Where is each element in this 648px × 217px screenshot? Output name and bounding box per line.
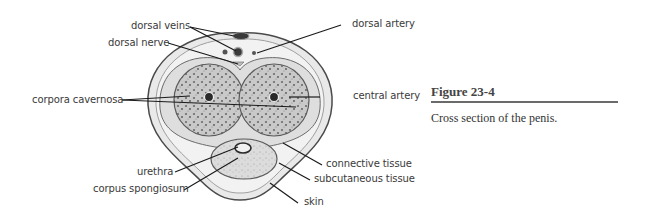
label-dorsal-veins: dorsal veins bbox=[131, 20, 190, 31]
label-skin: skin bbox=[304, 196, 324, 207]
label-connective-tissue: connective tissue bbox=[326, 158, 412, 169]
figure-divider bbox=[431, 101, 618, 103]
central-artery-left bbox=[205, 93, 214, 102]
label-dorsal-nerve: dorsal nerve bbox=[108, 37, 169, 48]
figure-caption: Cross section of the penis. bbox=[431, 111, 557, 126]
urethra-shape bbox=[235, 143, 251, 153]
label-subcutaneous-tissue: subcutaneous tissue bbox=[314, 173, 415, 184]
label-corpora-cavernosa: corpora cavernosa bbox=[32, 94, 123, 105]
corpus-spongiosum bbox=[211, 139, 277, 179]
label-dorsal-artery: dorsal artery bbox=[352, 18, 415, 29]
label-urethra: urethra bbox=[137, 166, 173, 177]
label-corpus-spongiosum: corpus spongiosum bbox=[93, 183, 189, 194]
label-central-artery: central artery bbox=[353, 90, 420, 101]
central-artery-right bbox=[270, 93, 279, 102]
figure-number: Figure 23-4 bbox=[431, 84, 495, 100]
